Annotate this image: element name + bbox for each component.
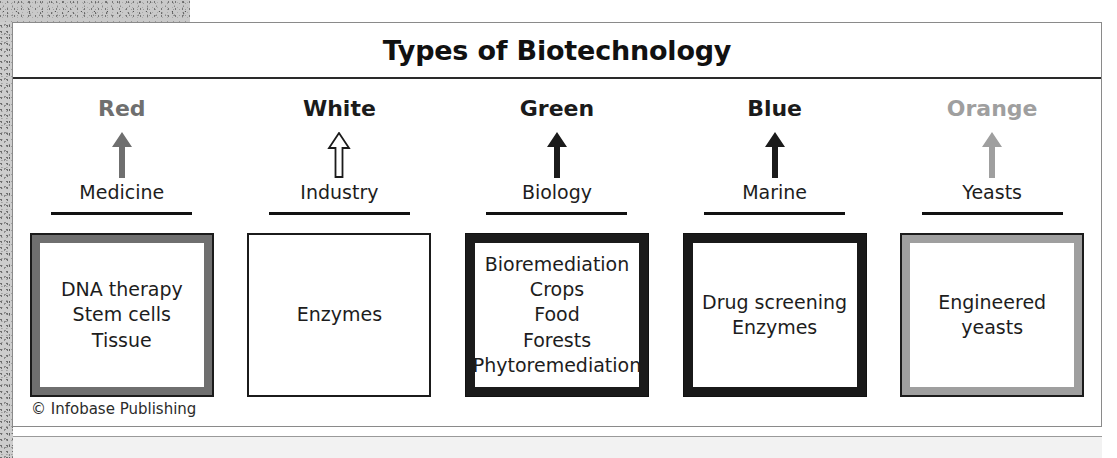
- field-label-green: Biology: [522, 183, 592, 205]
- up-arrow-icon-green: [540, 130, 574, 180]
- diagram-panel: Types of Biotechnology Red Medicine DNA …: [12, 22, 1102, 427]
- content-box-blue: Drug screening Enzymes: [683, 233, 867, 397]
- column-orange: Orange Yeasts Engineered yeasts: [883, 79, 1101, 428]
- content-box-orange: Engineered yeasts: [900, 233, 1084, 397]
- field-label-blue: Marine: [742, 183, 807, 205]
- column-red: Red Medicine DNA therapy Stem cells Tiss…: [13, 79, 231, 428]
- content-box-white: Enzymes: [247, 233, 431, 397]
- columns-container: Red Medicine DNA therapy Stem cells Tiss…: [13, 79, 1101, 428]
- page-bottom-strip: [13, 436, 1102, 458]
- field-label-orange: Yeasts: [962, 183, 1022, 205]
- content-box-inner-green: Bioremediation Crops Food Forests Phytor…: [475, 243, 639, 387]
- content-box-green: Bioremediation Crops Food Forests Phytor…: [465, 233, 649, 397]
- content-items-white: Enzymes: [293, 302, 386, 327]
- column-green: Green Biology Bioremediation Crops Food …: [448, 79, 666, 428]
- field-label-red: Medicine: [79, 183, 164, 205]
- category-label-orange: Orange: [947, 98, 1038, 122]
- category-label-blue: Blue: [747, 98, 802, 122]
- content-box-red: DNA therapy Stem cells Tissue: [30, 233, 214, 397]
- column-white: White Industry Enzymes: [231, 79, 449, 428]
- category-label-green: Green: [520, 98, 594, 122]
- content-items-orange: Engineered yeasts: [910, 290, 1074, 340]
- column-blue: Blue Marine Drug screening Enzymes: [666, 79, 884, 428]
- title-band: Types of Biotechnology: [13, 23, 1101, 79]
- up-arrow-icon-white: [322, 130, 356, 180]
- content-items-blue: Drug screening Enzymes: [698, 290, 851, 340]
- field-underline-orange: [922, 212, 1063, 215]
- scanned-page: Types of Biotechnology Red Medicine DNA …: [0, 0, 1117, 458]
- field-label-white: Industry: [300, 183, 378, 205]
- page-title: Types of Biotechnology: [383, 35, 732, 66]
- content-items-green: Bioremediation Crops Food Forests Phytor…: [469, 252, 645, 377]
- field-underline-green: [486, 212, 627, 215]
- scan-speckle-gutter-top: [0, 0, 190, 22]
- field-underline-blue: [704, 212, 845, 215]
- field-underline-white: [269, 212, 410, 215]
- content-items-red: DNA therapy Stem cells Tissue: [57, 277, 187, 352]
- field-underline-red: [51, 212, 192, 215]
- category-label-red: Red: [98, 98, 146, 122]
- copyright-credit: © Infobase Publishing: [31, 400, 196, 418]
- content-box-inner-red: DNA therapy Stem cells Tissue: [40, 243, 204, 387]
- content-box-inner-blue: Drug screening Enzymes: [693, 243, 857, 387]
- content-box-inner-orange: Engineered yeasts: [910, 243, 1074, 387]
- content-box-inner-white: Enzymes: [249, 235, 429, 395]
- category-label-white: White: [303, 98, 376, 122]
- up-arrow-icon-orange: [975, 130, 1009, 180]
- up-arrow-icon-blue: [758, 130, 792, 180]
- up-arrow-icon-red: [105, 130, 139, 180]
